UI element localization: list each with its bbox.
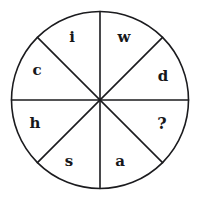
circle-geometry-group [12,12,189,189]
sector-label-right-lower-missing: ? [157,116,166,132]
sector-label-bottom-left: s [65,154,73,169]
sector-label-left-lower: h [30,116,41,131]
sector-label-right-upper: d [158,69,169,84]
sector-label-top-right: w [118,30,131,45]
sector-label-top-left: i [69,30,75,45]
sector-label-bottom-right: a [115,154,125,169]
circle-diagram [0,0,200,201]
sector-label-left-upper: c [32,63,41,78]
sector-wheel-figure: w d ? a s h c i [0,0,200,201]
